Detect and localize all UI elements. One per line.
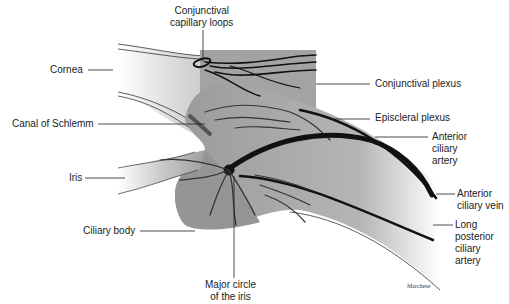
label-canal-of-schlemm: Canal of Schlemm	[12, 118, 94, 130]
label-conjunctival-plexus: Conjunctival plexus	[375, 78, 461, 90]
label-major-circle-of-iris: Major circle of the iris	[205, 279, 256, 303]
label-episcleral-plexus: Episcleral plexus	[375, 112, 450, 124]
label-anterior-ciliary-artery: Anterior ciliary artery	[432, 131, 467, 167]
label-anterior-ciliary-vein: Anterior ciliary vein	[457, 188, 504, 212]
label-conjunctival-capillary-loops: Conjunctival capillary loops	[170, 5, 233, 29]
label-ciliary-body: Ciliary body	[83, 225, 135, 237]
label-cornea: Cornea	[50, 64, 83, 76]
artist-signature: Marchese	[407, 283, 431, 289]
label-iris: Iris	[69, 172, 82, 184]
label-long-posterior-ciliary-artery: Long posterior ciliary artery	[455, 219, 494, 267]
